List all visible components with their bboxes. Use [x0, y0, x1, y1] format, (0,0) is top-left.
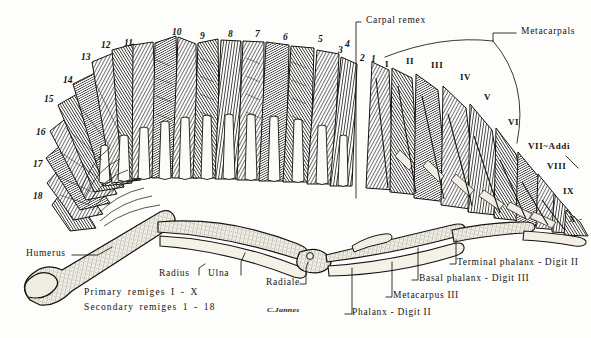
label-basal-phalanx-digit-iii: Basal phalanx - Digit III	[419, 274, 529, 284]
label-metacarpals: Metacarpals	[521, 27, 575, 37]
primary-numeral-iv: IV	[460, 73, 471, 82]
primary-numeral-i: I	[385, 60, 389, 69]
anatomy-plate: 18 17 16 15 14 13 12 11 10 9 8 7 6 5 4 3…	[0, 0, 591, 338]
secondary-number-18: 18	[33, 192, 43, 202]
label-radius: Radius	[159, 269, 190, 279]
legend-secondary-remiges: Secondary remiges 1 - 18	[84, 303, 215, 313]
primary-numeral-viii: VIII	[547, 162, 566, 171]
label-metacarpus-iii: Metacarpus III	[393, 291, 459, 301]
secondary-number-1: 1	[371, 55, 376, 65]
secondary-number-11: 11	[124, 39, 133, 49]
label-phalanx-digit-ii: Phalanx - Digit II	[352, 308, 431, 318]
secondary-number-15: 15	[44, 95, 54, 105]
legend-primary-remiges: Primary remiges I - X	[84, 288, 198, 298]
secondary-number-17: 17	[33, 160, 43, 170]
secondary-number-14: 14	[63, 76, 73, 86]
secondary-number-8: 8	[228, 30, 233, 40]
label-terminal-phalanx-digit-ii: Terminal phalanx - Digit II	[457, 258, 579, 268]
secondary-number-10: 10	[172, 28, 182, 38]
label-radiale: Radiale	[266, 278, 300, 288]
primary-numeral-vii: VII~Addi	[528, 142, 570, 151]
primary-numeral-vi: VI	[508, 118, 519, 127]
secondary-number-13: 13	[81, 53, 91, 63]
secondary-number-12: 12	[101, 41, 111, 51]
primary-numeral-iii: III	[431, 61, 443, 70]
secondary-number-7: 7	[255, 30, 260, 40]
label-ulna: Ulna	[208, 269, 229, 279]
artist-signature: C.Jannes	[267, 307, 300, 314]
label-carpal-remex: Carpal remex	[366, 16, 426, 26]
secondary-number-16: 16	[36, 128, 46, 138]
secondary-number-9: 9	[200, 32, 205, 42]
primary-numeral-ix: IX	[563, 187, 574, 196]
secondary-number-6: 6	[283, 33, 288, 43]
primary-numeral-v: V	[484, 93, 491, 102]
primary-numeral-ii: II	[406, 57, 414, 66]
secondary-number-2: 2	[360, 54, 365, 64]
secondary-number-4: 4	[345, 40, 350, 50]
secondary-number-5: 5	[318, 35, 323, 45]
secondary-number-3: 3	[338, 46, 343, 56]
primary-numeral-x: X -	[569, 215, 583, 224]
label-humerus: Humerus	[26, 249, 66, 259]
